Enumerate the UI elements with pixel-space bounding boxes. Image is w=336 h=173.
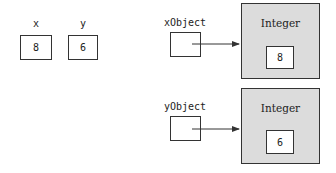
reference-arrows <box>0 0 336 173</box>
